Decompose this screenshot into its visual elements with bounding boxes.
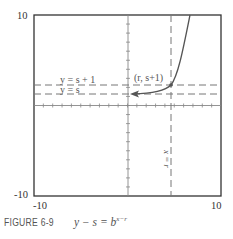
y-max-label: 10 bbox=[17, 10, 28, 21]
caption-label: FIGURE 6-9 bbox=[4, 216, 54, 228]
x-max-label: 10 bbox=[211, 200, 222, 211]
caption-equation-exponent: x−r bbox=[116, 215, 127, 223]
figure-caption: FIGURE 6-9 y − s = bx−r bbox=[4, 216, 65, 228]
caption-equation-base: y − s = b bbox=[74, 216, 116, 228]
caption-equation: y − s = bx−r bbox=[74, 215, 127, 228]
label-point: (r, s+1) bbox=[134, 72, 163, 84]
point-r-s-plus-1 bbox=[169, 83, 173, 87]
figure-chart: y = s + 1 y = s (r, s+1) x = r 10 -10 -1… bbox=[0, 0, 233, 239]
label-x-r: x = r bbox=[162, 149, 172, 169]
label-y-s: y = s bbox=[60, 84, 80, 95]
x-min-label: -10 bbox=[33, 200, 47, 211]
y-min-label: -10 bbox=[14, 189, 28, 200]
